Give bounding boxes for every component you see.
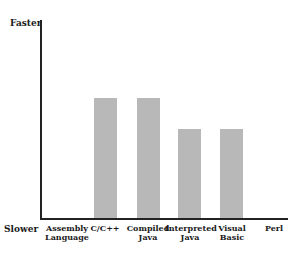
- x-axis-line: [40, 218, 288, 220]
- performance-bar-chart: Faster Slower Assembly Language C/C++ Co…: [0, 0, 306, 253]
- bar-c-cpp: [94, 98, 117, 218]
- bar-compiled-java: [137, 98, 160, 218]
- bar-visual-basic: [220, 129, 243, 218]
- x-tick-line2: Basic: [207, 233, 257, 242]
- y-axis-slower-label: Slower: [4, 224, 38, 234]
- x-tick-line2: Language: [42, 233, 92, 242]
- y-axis-line: [40, 20, 42, 219]
- x-tick-perl: Perl: [249, 224, 299, 233]
- x-tick-line1: Perl: [249, 224, 299, 233]
- y-axis-faster-label: Faster: [10, 18, 41, 28]
- bar-interpreted-java: [178, 129, 201, 218]
